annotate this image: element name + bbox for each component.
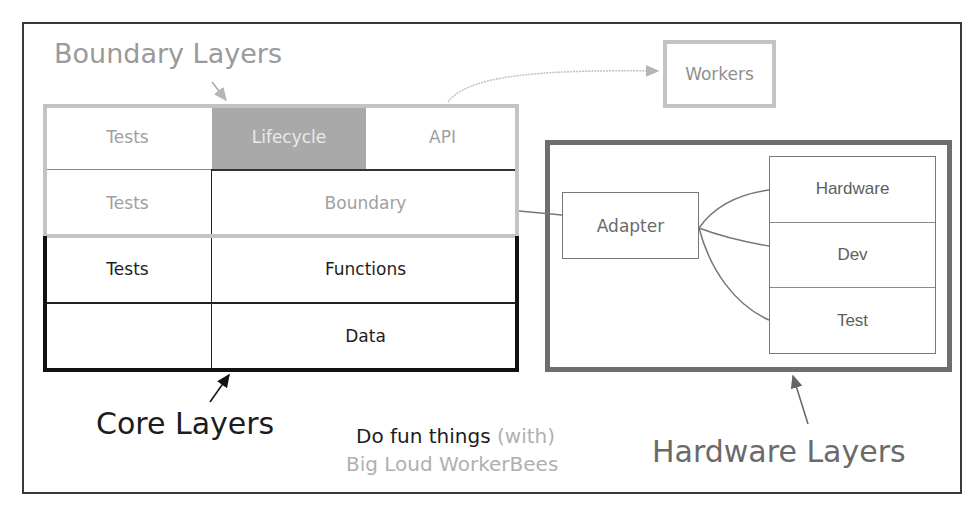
core-label-arrow-icon	[210, 375, 229, 402]
tagline-line2: Big Loud WorkerBees	[346, 452, 558, 476]
core-layers-label: Core Layers	[96, 406, 274, 441]
tagline-line1: Do fun things (with)	[356, 424, 555, 448]
boundary-to-adapter-line	[519, 211, 562, 215]
hardware-layers-label: Hardware Layers	[652, 434, 906, 469]
boundary-title-arrow-icon	[212, 82, 226, 100]
api-to-workers-arrow-icon	[448, 71, 658, 102]
tagline-aside: (with)	[497, 424, 555, 448]
adapter-to-stack-lines	[699, 190, 769, 320]
hardware-label-arrow-icon	[793, 376, 808, 424]
tagline-main: Do fun things	[356, 424, 491, 448]
